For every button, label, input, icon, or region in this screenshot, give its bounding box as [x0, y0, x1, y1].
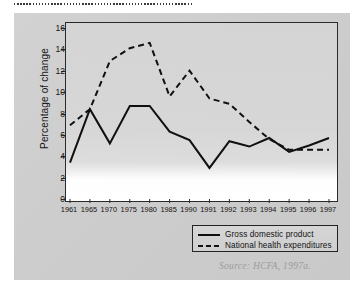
legend-swatch-dashed-line-icon [198, 241, 220, 250]
y-tick-label: 12 [49, 67, 65, 75]
source-note: Source: HCFA, 1997a. [219, 261, 311, 271]
y-tick-label: 8 [49, 110, 65, 118]
legend-label: Gross domestic product [225, 230, 314, 239]
plot-lines [66, 23, 339, 203]
top-dotted-rule [14, 3, 192, 5]
series-line-gross-domestic-product [70, 106, 329, 168]
series-line-national-health-expenditures [70, 43, 329, 150]
y-tick-label: 4 [49, 152, 65, 160]
y-axis-ticks: 0246810121416 [41, 22, 65, 202]
y-tick-label: 2 [49, 174, 65, 182]
y-tick-label: 6 [49, 131, 65, 139]
y-tick-label: 14 [49, 45, 65, 53]
chart-legend: Gross domestic product National health e… [192, 225, 338, 252]
legend-item-gross-domestic-product: Gross domestic product [198, 229, 337, 239]
x-tick-label: 1997 [313, 205, 343, 214]
y-tick-label: 0 [49, 195, 65, 203]
legend-swatch-solid-line-icon [198, 230, 220, 239]
legend-item-national-health-expenditures: National health expenditures [198, 240, 337, 250]
legend-label: National health expenditures [225, 241, 332, 250]
x-axis-labels: 1961196519701975198019851990199119921993… [65, 205, 338, 219]
figure-root: Percentage of change 0246810121416 19611… [0, 0, 363, 297]
y-tick-label: 16 [49, 24, 65, 32]
plot-area [65, 22, 338, 202]
y-tick-label: 10 [49, 88, 65, 96]
chart-panel: Percentage of change 0246810121416 19611… [14, 13, 350, 280]
